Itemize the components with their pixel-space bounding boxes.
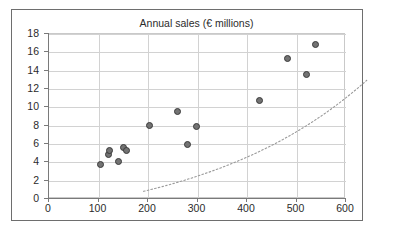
- x-axis-tick: [98, 198, 99, 202]
- chart-title: Annual sales (€ millions): [48, 17, 345, 29]
- x-tick-label: 200: [127, 203, 167, 213]
- x-tick-label: 400: [226, 203, 266, 213]
- y-axis-tick: [44, 125, 48, 126]
- scatter-point: [193, 123, 200, 130]
- scatter-point: [106, 147, 113, 154]
- y-axis-tick: [44, 88, 48, 89]
- y-tick-label: 12: [0, 83, 39, 93]
- x-axis-tick: [147, 198, 148, 202]
- x-axis-tick: [345, 198, 346, 202]
- x-axis-tick: [296, 198, 297, 202]
- y-axis-tick: [44, 106, 48, 107]
- y-axis-tick: [44, 33, 48, 34]
- scatter-point: [97, 161, 104, 168]
- y-axis-line: [48, 33, 49, 199]
- x-axis-tick: [48, 198, 49, 202]
- y-tick-label: 14: [0, 65, 39, 75]
- y-axis-tick: [44, 70, 48, 71]
- y-tick-label: 4: [0, 156, 39, 166]
- x-axis-tick: [246, 198, 247, 202]
- scatter-point: [256, 97, 263, 104]
- y-tick-label: 2: [0, 175, 39, 185]
- y-axis-tick: [44, 161, 48, 162]
- chart-canvas: Annual sales (€ millions) 02468101214161…: [0, 0, 393, 240]
- y-axis-tick: [44, 180, 48, 181]
- y-axis-tick: [44, 51, 48, 52]
- y-tick-label: 8: [0, 120, 39, 130]
- x-tick-label: 500: [276, 203, 316, 213]
- scatter-point: [115, 158, 122, 165]
- x-tick-label: 300: [177, 203, 217, 213]
- scatter-point: [184, 141, 191, 148]
- y-tick-label: 18: [0, 28, 39, 38]
- scatter-point: [312, 41, 319, 48]
- x-tick-label: 600: [325, 203, 365, 213]
- y-axis-tick: [44, 143, 48, 144]
- y-tick-label: 0: [0, 193, 39, 203]
- y-tick-label: 10: [0, 101, 39, 111]
- scatter-point: [284, 55, 291, 62]
- y-tick-label: 16: [0, 46, 39, 56]
- scatter-point: [303, 71, 310, 78]
- x-tick-label: 100: [78, 203, 118, 213]
- plot-area: [48, 33, 345, 198]
- x-axis-tick: [197, 198, 198, 202]
- x-tick-label: 0: [28, 203, 68, 213]
- y-tick-label: 6: [0, 138, 39, 148]
